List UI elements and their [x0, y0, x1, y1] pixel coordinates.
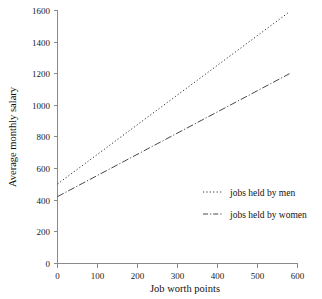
x-tick-label: 600: [291, 271, 305, 281]
y-tick-label: 800: [37, 132, 51, 142]
x-tick-label: 100: [91, 271, 105, 281]
chart-container: 1600 1400 1200 1000 800 600 400 200 0 0 …: [0, 0, 322, 299]
legend-label-jobs-held-by-women: jobs held by women: [229, 210, 307, 220]
y-tick-label: 200: [37, 227, 51, 237]
y-axis-title: Average monthly salary: [7, 86, 18, 187]
x-tick-label: 400: [211, 271, 225, 281]
x-tick-label: 300: [171, 271, 185, 281]
x-tick-label: 500: [251, 271, 265, 281]
y-tick-label: 400: [37, 196, 51, 206]
x-axis-title: Job worth points: [150, 283, 220, 294]
y-tick-label: 600: [37, 164, 51, 174]
x-tick-label: 200: [131, 271, 145, 281]
y-tick-label: 1200: [32, 69, 51, 79]
x-tick-label: 0: [55, 271, 60, 281]
y-tick-label: 1000: [32, 101, 51, 111]
legend-label-jobs-held-by-men: jobs held by men: [229, 188, 295, 198]
line-chart-plot: 1600 1400 1200 1000 800 600 400 200 0 0 …: [0, 0, 322, 299]
y-tick-label: 0: [46, 259, 51, 269]
y-tick-label: 1600: [32, 6, 51, 16]
y-tick-label: 1400: [32, 38, 51, 48]
